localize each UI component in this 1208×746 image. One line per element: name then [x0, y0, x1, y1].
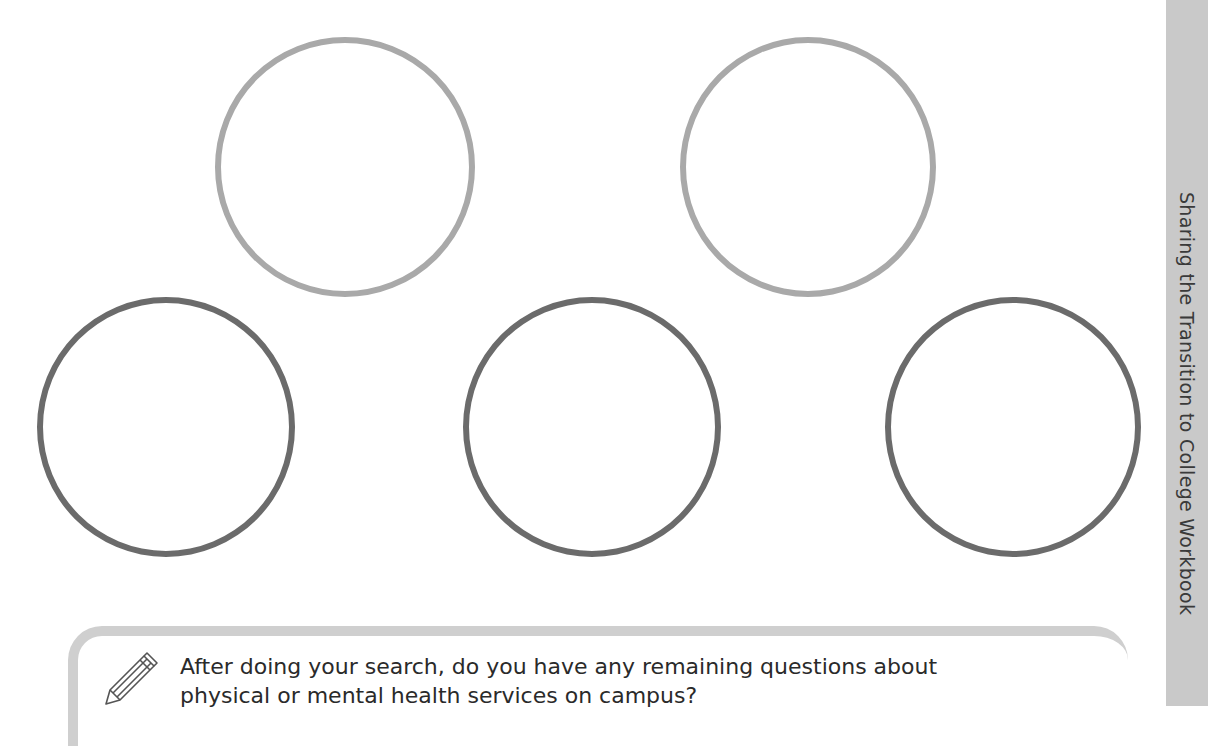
pencil-icon	[100, 650, 160, 710]
note-line-1: After doing your search, do you have any…	[180, 652, 1120, 681]
side-tab-label: Sharing the Transition to College Workbo…	[1176, 192, 1198, 615]
circle-top-left[interactable]	[215, 37, 475, 297]
circle-bottom-right[interactable]	[885, 297, 1141, 557]
note-line-2: physical or mental health services on ca…	[180, 681, 1120, 710]
note-question: After doing your search, do you have any…	[180, 652, 1120, 710]
side-tab: Sharing the Transition to College Workbo…	[1166, 0, 1208, 706]
circle-top-right[interactable]	[680, 37, 936, 297]
circle-bottom-middle[interactable]	[463, 297, 721, 557]
circle-bottom-left[interactable]	[37, 297, 295, 557]
